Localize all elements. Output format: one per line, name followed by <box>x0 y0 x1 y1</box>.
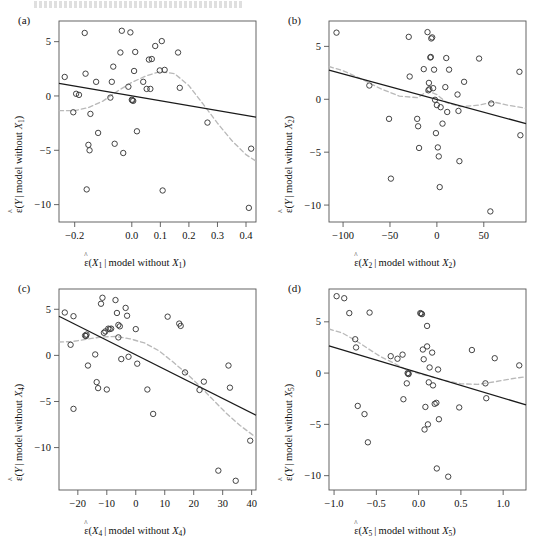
data-point <box>109 79 114 84</box>
data-point <box>347 310 352 315</box>
data-point <box>175 50 180 55</box>
linear-fit-line <box>329 70 526 123</box>
data-point <box>177 85 182 90</box>
data-point <box>334 30 339 35</box>
data-point <box>153 43 158 48</box>
panel-b-ylabel-sub: 2 <box>287 119 296 123</box>
cropped-caption-remnant <box>34 1 244 8</box>
x-tick-label: 0.1 <box>154 230 167 241</box>
data-point <box>437 184 442 189</box>
data-point <box>424 323 429 328</box>
panel-a-ylabel: ε^(Y | model without X1) <box>13 116 26 213</box>
data-point <box>362 411 367 416</box>
data-point <box>457 405 462 410</box>
panel-b-xlabel-sub: 2 <box>369 261 373 270</box>
data-point <box>489 101 494 106</box>
plot-frame <box>329 289 526 490</box>
data-point <box>114 310 119 315</box>
data-point <box>216 468 221 473</box>
data-point <box>435 145 440 150</box>
data-point <box>111 64 116 69</box>
data-point <box>62 74 67 79</box>
data-point <box>422 427 427 432</box>
x-tick-label: 10 <box>159 498 170 509</box>
panel-d-plot: −1.0−0.50.00.51.050−5−10 <box>270 276 540 541</box>
data-point <box>444 55 449 60</box>
data-point <box>123 305 128 310</box>
panel-b-plot: −100−5005050−5−10 <box>270 8 540 276</box>
panel-d-xlabel-sub: 5 <box>369 529 373 538</box>
data-point <box>443 84 448 89</box>
y-tick-label: 0 <box>46 91 51 102</box>
data-point <box>446 67 451 72</box>
panel-b: (b) −100−5005050−5−10 ε^(Y | model witho… <box>270 8 540 276</box>
data-point <box>124 313 129 318</box>
data-point <box>429 350 434 355</box>
panel-a: (a) −0.20.00.10.20.30.450−5−10 ε^(Y | mo… <box>0 8 270 276</box>
x-tick-label: −0.5 <box>367 498 386 509</box>
data-point <box>431 67 436 72</box>
panel-c-ylabel-sub: 4 <box>17 387 26 391</box>
data-point <box>406 34 411 39</box>
x-tick-label: 20 <box>188 498 199 509</box>
y-tick-label: −5 <box>310 419 321 430</box>
data-point <box>227 385 232 390</box>
y-tick-label: 5 <box>46 36 51 47</box>
data-point <box>461 79 466 84</box>
data-point <box>492 356 497 361</box>
panel-c-ylabel: ε^(Y | model without X4) <box>13 384 26 481</box>
data-point <box>118 50 123 55</box>
data-point <box>407 74 412 79</box>
x-tick-label: −20 <box>70 498 86 509</box>
data-point <box>86 142 91 147</box>
data-point <box>476 56 481 61</box>
x-tick-label: 0 <box>133 498 138 509</box>
data-point <box>401 397 406 402</box>
panel-c: (c) −20−1001020304050−5−10 ε^(Y | model … <box>0 276 270 541</box>
panel-a-xlabel: ε^(X1 | model without X1) <box>0 257 270 270</box>
panel-c-plot: −20−1001020304050−5−10 <box>0 276 270 541</box>
panel-d: (d) −1.0−0.50.00.51.050−5−10 ε^(Y | mode… <box>270 276 540 541</box>
data-point <box>353 345 358 350</box>
data-point <box>141 79 146 84</box>
data-point <box>205 120 210 125</box>
data-point <box>131 68 136 73</box>
data-point <box>133 326 138 331</box>
data-point <box>71 406 76 411</box>
x-tick-label: −10 <box>99 498 115 509</box>
data-point <box>126 354 131 359</box>
y-tick-label: −10 <box>35 442 51 453</box>
y-tick-label: −10 <box>305 470 321 481</box>
data-point <box>100 295 105 300</box>
data-point <box>112 141 117 146</box>
x-tick-label: 30 <box>217 498 228 509</box>
data-point <box>95 385 100 390</box>
panel-b-xlabel: ε^(X2 | model without X2) <box>270 257 540 270</box>
x-tick-label: −1.0 <box>325 498 344 509</box>
panel-a-xlabel-sub: 1 <box>99 261 103 270</box>
data-point <box>395 356 400 361</box>
data-point <box>160 188 165 193</box>
data-point <box>517 363 522 368</box>
y-tick-label: 5 <box>316 41 321 52</box>
data-point <box>87 148 92 153</box>
x-tick-label: −50 <box>382 230 398 241</box>
x-tick-label: 0.0 <box>412 498 425 509</box>
data-point <box>85 363 90 368</box>
data-point <box>388 353 393 358</box>
data-point <box>436 417 441 422</box>
data-point <box>434 400 439 405</box>
data-point <box>425 29 430 34</box>
y-tick-label: −5 <box>310 147 321 158</box>
x-tick-label: 0.3 <box>211 230 224 241</box>
data-point <box>435 367 440 372</box>
data-point <box>233 478 238 483</box>
data-point <box>197 387 202 392</box>
y-tick-label: −5 <box>40 145 51 156</box>
y-tick-label: −10 <box>305 200 321 211</box>
x-tick-label: −0.2 <box>65 230 84 241</box>
x-tick-label: 0 <box>434 230 439 241</box>
data-point <box>201 379 206 384</box>
data-point <box>436 154 441 159</box>
data-point <box>334 293 339 298</box>
